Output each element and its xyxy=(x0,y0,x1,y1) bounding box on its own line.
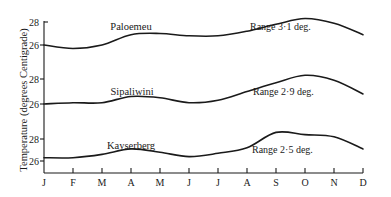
range-sipaliwini: Range 2·9 deg. xyxy=(253,86,314,97)
month-label: J xyxy=(187,177,191,188)
curve-sipaliwini xyxy=(44,75,363,104)
temperature-chart: Temperature (degrees Centigrade) 28 26 2… xyxy=(0,0,391,197)
ytick-28: 28 xyxy=(29,134,39,145)
panel-sipaliwini-yticks: 28 26 xyxy=(29,74,44,110)
label-kayserberg: Kayserberg xyxy=(107,140,156,151)
month-label: J xyxy=(216,177,220,188)
ytick-26: 26 xyxy=(29,156,39,167)
ytick-26: 26 xyxy=(29,99,39,110)
month-label: M xyxy=(156,177,165,188)
ytick-26: 26 xyxy=(29,40,39,51)
month-label: M xyxy=(98,177,107,188)
month-label: S xyxy=(273,177,279,188)
month-label: D xyxy=(359,177,366,188)
curve-kayserberg xyxy=(44,132,363,158)
range-kayserberg: Range 2·5 deg. xyxy=(252,144,313,155)
month-label: A xyxy=(127,177,135,188)
range-paloemeu: Range 3·1 deg. xyxy=(250,21,311,32)
ytick-28: 28 xyxy=(29,17,39,28)
x-axis-ticks: JFMAMJJASOND xyxy=(42,168,367,188)
ytick-28: 28 xyxy=(29,74,39,85)
month-label: O xyxy=(301,177,308,188)
month-label: J xyxy=(42,177,46,188)
month-label: F xyxy=(70,177,76,188)
curve-paloemeu xyxy=(44,18,363,48)
month-label: A xyxy=(243,177,251,188)
panel-kayserberg-yticks: 28 26 xyxy=(29,134,44,167)
label-sipaliwini: Sipaliwini xyxy=(110,86,153,97)
label-paloemeu: Paloemeu xyxy=(110,21,152,32)
month-label: N xyxy=(330,177,337,188)
